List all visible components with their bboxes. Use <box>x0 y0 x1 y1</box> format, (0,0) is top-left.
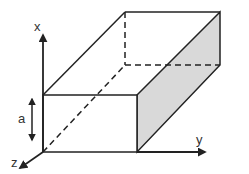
right-face-shaded <box>137 12 220 152</box>
y-axis-label: y <box>196 132 203 147</box>
box-diagram: x y z a <box>0 0 249 174</box>
front-face <box>43 95 137 152</box>
z-axis-label: z <box>11 155 18 170</box>
dimension-a-label: a <box>18 111 26 126</box>
top-left-edge <box>43 12 125 95</box>
x-axis-label: x <box>34 19 41 34</box>
z-axis-arrow <box>20 152 43 168</box>
